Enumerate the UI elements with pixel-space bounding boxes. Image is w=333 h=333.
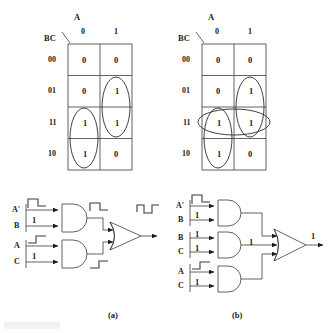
kmap-b-row-header-00: 00 (182, 56, 190, 64)
circuit-b-vector (190, 195, 323, 292)
kmap-b-cell-11-1: 1 (249, 119, 253, 128)
circuit-a-input-label-b: B (14, 222, 19, 230)
circuit-b-input-label-b2: B (178, 234, 183, 242)
circuit-a-input-value-c: 1 (32, 252, 36, 261)
waveform-b-input-a-prime (192, 195, 210, 204)
kmap-b-cell-10-1: 0 (248, 150, 252, 159)
or-gate-a-backcurve (110, 222, 115, 250)
kmap-b-col-header-1: 1 (248, 28, 252, 36)
kmap-a-cell-10-1: 0 (114, 150, 118, 159)
kmap-b-cell-01-1: 1 (249, 87, 253, 96)
kmap-a-cell-10-0: 1 (83, 150, 87, 159)
kmap-a-col-header-1: 1 (114, 28, 118, 36)
kmap-b-group-bc-prime (204, 108, 232, 168)
kmap-a-group-bc-prime (70, 108, 98, 168)
circuit-b-and-middle-output-value: 1 (249, 238, 253, 247)
kmap-a-cell-00-0: 0 (82, 56, 86, 65)
kmap-a-cell-01-1: 1 (115, 87, 119, 96)
circuit-a-input-value-b: 1 (32, 216, 36, 225)
circuit-a-vector (26, 199, 159, 268)
kmap-a-col-var-label: A (74, 13, 80, 22)
waveform-b-input-a (192, 262, 210, 269)
circuit-b-input-label-a-prime: A' (176, 202, 184, 210)
and-gate-b-top-body (218, 200, 241, 226)
scan-artifact (4, 322, 60, 329)
kmap-a-row-header-11: 11 (49, 119, 57, 127)
kmap-a-cell-11-1: 1 (115, 119, 119, 128)
figure-vector-layer (0, 0, 333, 333)
circuit-a-input-label-a: A (14, 242, 20, 250)
kmap-a-cell-00-1: 0 (114, 56, 118, 65)
circuit-b-input-label-c1: C (178, 248, 184, 256)
and-gate-a-top-body (62, 204, 87, 232)
kmap-b-row-var-label: BC (178, 34, 190, 43)
circuit-b-input-value-c1: 1 (195, 244, 199, 253)
kmap-b-cell-00-1: 0 (248, 56, 252, 65)
circuit-a-input-label-c: C (14, 258, 20, 266)
kmap-b-cell-11-0: 1 (217, 119, 221, 128)
kmap-b-row-header-10: 10 (182, 150, 190, 158)
circuit-b-or-output-value: 1 (311, 232, 315, 241)
kmap-b-row-header-11: 11 (183, 119, 191, 127)
circuit-b-input-value-b2: 1 (195, 230, 199, 239)
circuit-b-input-label-a: A (178, 268, 184, 276)
kmap-b-cell-00-0: 0 (216, 56, 220, 65)
circuit-b-input-value-c2: 1 (195, 278, 199, 287)
and-gate-b-bottom-body (218, 266, 241, 292)
kmap-b-col-var-label: A (208, 13, 214, 22)
and-gate-b-middle-body (218, 232, 241, 258)
kmap-a-row-header-10: 10 (48, 150, 56, 158)
waveform-a-and-bottom-output (90, 261, 108, 268)
kmap-a-row-header-01: 01 (48, 87, 56, 95)
kmap-a-row-var-label: BC (44, 34, 56, 43)
circuit-a-input-label-a-prime: A' (12, 206, 20, 214)
circuit-b-input-value-b1: 1 (195, 211, 199, 220)
kmap-a-cell-11-0: 1 (83, 119, 87, 128)
figure-hazard-kmaps-circuits: A BC 0 1 00 01 11 10 0 0 0 1 1 1 1 0 A B… (0, 0, 333, 333)
and-gate-a-bottom-body (62, 240, 87, 268)
kmap-b-row-header-01: 01 (182, 87, 190, 95)
waveform-a-and-top-output (90, 203, 108, 211)
waveform-a-or-output-glitch (137, 205, 159, 213)
kmap-b-col-header-0: 0 (215, 28, 219, 36)
waveform-a-input-a-prime (28, 199, 46, 208)
kmap-a-row-header-00: 00 (48, 56, 56, 64)
kmap-b-cell-10-0: 1 (217, 150, 221, 159)
kmap-a-cell-01-0: 0 (82, 87, 86, 96)
circuit-b-input-label-c2: C (178, 282, 184, 290)
caption-a: (a) (108, 311, 118, 320)
kmap-a-col-header-0: 0 (81, 28, 85, 36)
caption-b: (b) (232, 311, 242, 320)
kmap-b-cell-01-0: 0 (216, 87, 220, 96)
circuit-b-input-label-b1: B (178, 216, 183, 224)
waveform-a-input-a (28, 236, 46, 243)
